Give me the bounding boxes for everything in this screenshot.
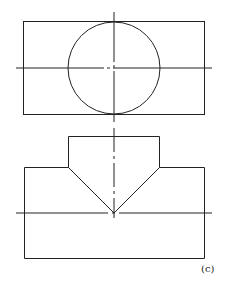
front-view-outline	[25, 137, 205, 259]
figure-label: (c)	[201, 263, 214, 274]
orthographic-drawing	[0, 0, 231, 284]
